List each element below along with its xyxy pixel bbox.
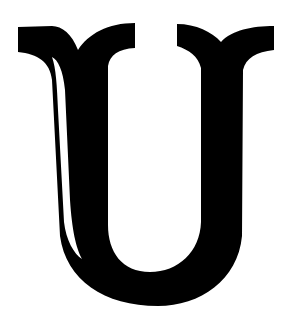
- decorative-letter-u-glyph: [0, 0, 292, 326]
- letter-canvas: U: [0, 0, 292, 326]
